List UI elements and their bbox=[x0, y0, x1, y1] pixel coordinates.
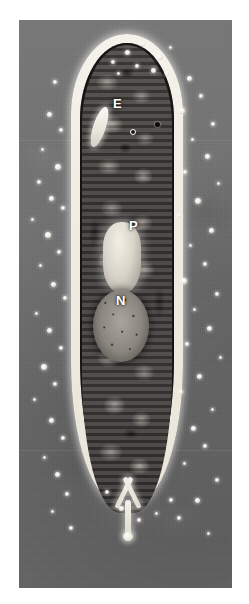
bacteria-speck bbox=[61, 206, 65, 210]
bacteria-speck bbox=[53, 80, 57, 84]
bacteria-speck bbox=[181, 278, 187, 284]
bacteria-speck bbox=[177, 214, 181, 218]
spine-tip bbox=[123, 532, 133, 541]
bacteria-speck bbox=[35, 312, 38, 315]
bacteria-speck bbox=[217, 182, 220, 185]
bacteria-speck bbox=[135, 64, 139, 68]
bacteria-speck bbox=[105, 490, 109, 494]
bacteria-speck bbox=[51, 510, 54, 513]
figure-page: EPN bbox=[0, 0, 249, 604]
bacteria-speck bbox=[117, 72, 120, 75]
marker-ring bbox=[130, 129, 136, 135]
bacteria-speck bbox=[61, 436, 65, 440]
bacteria-speck bbox=[165, 72, 169, 76]
bacteria-speck bbox=[203, 444, 207, 448]
bacteria-speck bbox=[191, 426, 196, 431]
bacteria-speck bbox=[187, 76, 192, 81]
bacteria-speck bbox=[39, 264, 42, 267]
bacteria-speck bbox=[49, 418, 54, 423]
bacteria-speck bbox=[65, 492, 69, 496]
bacteria-speck bbox=[151, 68, 156, 73]
bacteria-speck bbox=[47, 328, 52, 333]
bacteria-speck bbox=[59, 128, 63, 132]
bacteria-speck bbox=[199, 94, 203, 98]
marker-dot bbox=[155, 122, 160, 127]
bacteria-speck bbox=[157, 54, 163, 60]
bacteria-speck bbox=[219, 356, 222, 359]
bacteria-speck bbox=[119, 506, 124, 511]
bacteria-speck bbox=[111, 60, 115, 64]
protozoan-organism bbox=[71, 34, 183, 526]
bacteria-speck bbox=[207, 326, 212, 331]
bacteria-speck bbox=[137, 518, 141, 522]
bacteria-speck bbox=[69, 526, 73, 530]
bacteria-speck bbox=[195, 498, 200, 503]
bacteria-speck bbox=[179, 390, 183, 394]
bacteria-speck bbox=[63, 296, 67, 300]
bacteria-speck bbox=[211, 122, 215, 126]
bacteria-speck bbox=[47, 112, 52, 117]
bacteria-speck bbox=[155, 512, 158, 515]
bacteria-speck bbox=[169, 46, 172, 49]
bacteria-speck bbox=[125, 50, 130, 55]
bacteria-speck bbox=[183, 170, 187, 174]
bacteria-speck bbox=[215, 478, 219, 482]
bacteria-speck bbox=[185, 342, 189, 346]
bacteria-speck bbox=[33, 398, 36, 401]
bacteria-speck bbox=[195, 198, 201, 204]
label-e: E bbox=[113, 97, 122, 110]
bacteria-speck bbox=[41, 148, 44, 151]
bacteria-speck bbox=[57, 250, 61, 254]
bacteria-speck bbox=[55, 164, 61, 170]
bacteria-speck bbox=[205, 154, 210, 159]
bacteria-speck bbox=[193, 308, 196, 311]
bacteria-speck bbox=[49, 196, 54, 201]
bacteria-speck bbox=[215, 292, 219, 296]
label-n: N bbox=[116, 294, 125, 307]
bacteria-speck bbox=[51, 282, 56, 287]
bacteria-speck bbox=[31, 218, 34, 221]
bacteria-speck bbox=[197, 374, 202, 379]
bacteria-speck bbox=[53, 382, 57, 386]
bacteria-speck bbox=[45, 232, 51, 238]
bacteria-speck bbox=[59, 346, 63, 350]
bacteria-speck bbox=[189, 244, 192, 247]
label-p: P bbox=[129, 219, 138, 232]
bacteria-speck bbox=[203, 262, 207, 266]
bacteria-speck bbox=[141, 42, 145, 46]
bacteria-speck bbox=[37, 180, 41, 184]
bacteria-speck bbox=[55, 472, 60, 477]
bacteria-speck bbox=[211, 408, 214, 411]
bacteria-speck bbox=[169, 498, 173, 502]
bacteria-speck bbox=[41, 364, 47, 370]
bacteria-speck bbox=[191, 138, 194, 141]
bacteria-speck bbox=[179, 108, 185, 114]
bacteria-speck bbox=[177, 516, 181, 520]
bacteria-speck bbox=[183, 462, 186, 465]
caudal-spine bbox=[109, 474, 147, 540]
bacteria-speck bbox=[209, 228, 214, 233]
bacteria-speck bbox=[207, 532, 210, 535]
micrograph-plate: EPN bbox=[19, 20, 232, 588]
bacteria-speck bbox=[43, 456, 46, 459]
